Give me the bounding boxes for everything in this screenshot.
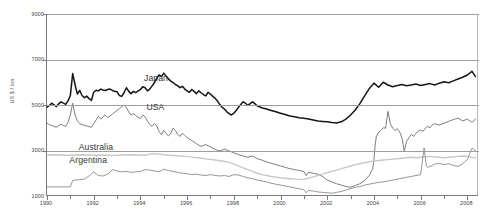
- y-tick-label-7000: 7000: [18, 56, 44, 62]
- x-tick-1998: [234, 196, 235, 200]
- x-tick-label-2008: 2008: [446, 200, 486, 206]
- x-tick-2006: [421, 196, 422, 200]
- x-tick-label-2006: 2006: [400, 200, 440, 206]
- x-tick-1997: [210, 196, 211, 199]
- x-tick-label-2000: 2000: [260, 200, 300, 206]
- x-tick-2008: [467, 196, 468, 200]
- x-tick-label-1992: 1992: [73, 200, 113, 206]
- y-tick-9000: [43, 14, 47, 15]
- y-axis-tick-labels: 90007000500030001000: [14, 0, 44, 222]
- x-tick-label-1994: 1994: [119, 200, 159, 206]
- x-tick-label-2002: 2002: [306, 200, 346, 206]
- series-label-japan: Japan: [144, 73, 168, 83]
- x-tick-1994: [140, 196, 141, 200]
- x-tick-2001: [304, 196, 305, 199]
- x-tick-2000: [281, 196, 282, 200]
- plot-area: [46, 14, 478, 196]
- gridline-y-5000: [47, 105, 479, 106]
- x-tick-2004: [374, 196, 375, 200]
- x-tick-1996: [187, 196, 188, 200]
- series-label-argentina: Argentina: [69, 155, 107, 165]
- x-tick-2002: [327, 196, 328, 200]
- x-tick-label-1990: 1990: [26, 200, 66, 206]
- y-tick-label-5000: 5000: [18, 102, 44, 108]
- x-tick-label-2004: 2004: [353, 200, 393, 206]
- x-tick-2007: [444, 196, 445, 199]
- x-tick-1992: [94, 196, 95, 200]
- series-line-argentina: [47, 148, 476, 194]
- y-tick-5000: [43, 105, 47, 106]
- y-tick-3000: [43, 151, 47, 152]
- x-tick-1993: [117, 196, 118, 199]
- y-tick-label-3000: 3000: [18, 147, 44, 153]
- series-label-australia: Australia: [79, 142, 113, 152]
- y-tick-label-9000: 9000: [18, 11, 44, 17]
- series-label-usa: USA: [146, 102, 164, 112]
- x-tick-2003: [351, 196, 352, 199]
- line-chart: US $ / ton 90007000500030001000 19901992…: [0, 0, 493, 222]
- series-line-australia: [47, 154, 476, 180]
- x-tick-label-1996: 1996: [166, 200, 206, 206]
- x-tick-2005: [397, 196, 398, 199]
- x-tick-1999: [257, 196, 258, 199]
- gridline-y-7000: [47, 60, 479, 61]
- y-tick-7000: [43, 60, 47, 61]
- x-tick-label-1998: 1998: [213, 200, 253, 206]
- y-tick-label-1000: 1000: [18, 193, 44, 199]
- x-tick-1995: [164, 196, 165, 199]
- gridline-y-9000: [47, 14, 479, 15]
- x-tick-1990: [47, 196, 48, 200]
- x-tick-1991: [70, 196, 71, 199]
